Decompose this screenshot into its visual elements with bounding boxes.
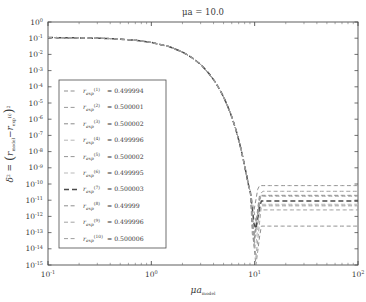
figure-root: μa = 10.0 10010-110-210-310-410-510-610-… (0, 0, 366, 302)
legend: rexp(1)= 0.499994rexp(2)= 0.500001rexp(3… (59, 80, 166, 248)
chart-title: μa = 10.0 (182, 7, 224, 17)
chart-canvas: μa = 10.0 10010-110-210-310-410-510-610-… (0, 0, 366, 302)
figure-background (0, 0, 366, 302)
